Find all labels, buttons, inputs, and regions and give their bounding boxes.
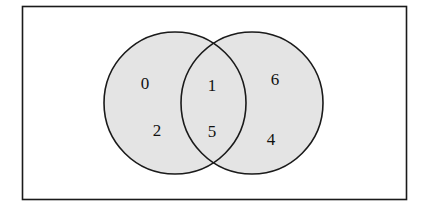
element-label: 1 bbox=[208, 76, 217, 95]
element-label: 0 bbox=[141, 74, 150, 93]
venn-diagram: 0 2 1 5 6 4 bbox=[0, 0, 425, 206]
element-label: 2 bbox=[153, 121, 162, 140]
element-label: 6 bbox=[271, 70, 280, 89]
element-label: 4 bbox=[267, 130, 276, 149]
element-label: 5 bbox=[208, 122, 217, 141]
